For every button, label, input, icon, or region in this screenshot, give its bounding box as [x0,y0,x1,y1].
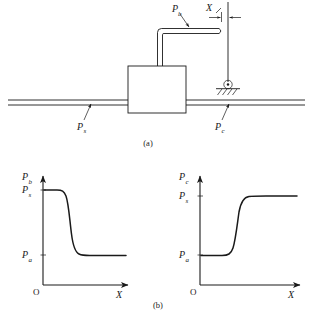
nozzle-pressure-annotation: P b [171,3,189,27]
y-axis-label: P [178,171,185,182]
ytick-label-ps-subscript: s [186,197,189,205]
x-axis-label: X [287,289,295,300]
x-axis-label: X [115,289,123,300]
nozzle-tube [158,29,221,67]
nozzle-pressure-subscript: b [178,10,182,18]
graph-control-pressure: P c P s P a O X [178,171,300,300]
ytick-label-pa-subscript: a [186,256,190,264]
ytick-label-ps-subscript: s [29,191,32,199]
supply-pressure-subscript: s [84,127,87,135]
graph-nozzle-back-pressure: P b P s P a O X [21,171,128,300]
schematic-diagram: X P b P s P c (a) [8,2,305,148]
graphs-caption: (b) [153,300,163,310]
curve-pc [201,196,297,256]
control-pressure-annotation: P c [214,104,229,135]
control-pressure-label: P [214,121,221,132]
ytick-label-pa: P [178,249,185,260]
ytick-label-pa: P [21,249,28,260]
curve-pb [44,190,126,256]
supply-pressure-annotation: P s [76,104,91,135]
valve-body [128,66,186,113]
ytick-label-pa-subscript: a [29,256,33,264]
ytick-label-ps: P [21,184,28,195]
control-line [186,100,305,105]
origin-label: O [33,287,40,297]
supply-line [8,100,128,105]
origin-label: O [190,287,197,297]
supply-pressure-label: P [76,121,83,132]
ground-hatching [216,89,240,95]
y-axis-label: P [21,171,28,182]
gap-dimension: X [205,2,241,22]
schematic-caption: (a) [143,138,153,148]
figure-svg: X P b P s P c (a) [0,0,315,315]
y-axis-label-subscript: b [29,178,33,186]
ytick-label-ps: P [178,190,185,201]
y-axis-label-subscript: c [186,178,190,186]
control-pressure-subscript: c [222,127,226,135]
gap-label: X [205,2,213,13]
figure-root: X P b P s P c (a) [0,0,315,315]
